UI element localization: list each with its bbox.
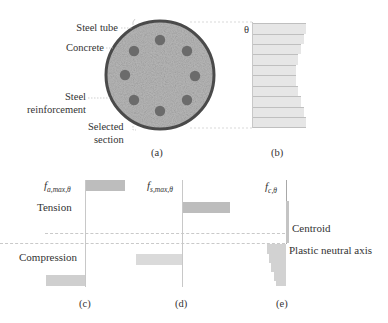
strip	[253, 34, 304, 44]
caption-e: (e)	[276, 298, 288, 309]
tension-bar-reinforcement	[183, 202, 230, 213]
stress-label-steel-tube: fa,max,θ	[44, 179, 71, 196]
plastic-neutral-axis-line	[0, 243, 285, 244]
axis-c	[85, 180, 86, 287]
label-steel-reinforcement-line2: reinforcement	[10, 104, 86, 116]
compression-bar-reinforcement	[136, 254, 182, 265]
strip	[253, 117, 306, 128]
concrete-compression-block	[276, 281, 286, 286]
label-steel-reinforcement-line1: Steel	[20, 91, 86, 103]
strip	[253, 75, 296, 86]
concrete-tension-sliver	[286, 201, 289, 243]
caption-a: (a)	[151, 147, 163, 158]
strip	[253, 96, 301, 107]
concrete-compression-block	[269, 254, 286, 263]
label-steel-tube: Steel tube	[51, 22, 118, 34]
stress-label-concrete: fc,θ	[265, 180, 277, 197]
centroid-line	[45, 233, 285, 234]
caption-b: (b)	[271, 147, 283, 158]
label-concrete: Concrete	[40, 42, 104, 54]
strip	[253, 107, 304, 117]
concrete-compression-block	[274, 272, 286, 281]
label-compression: Compression	[19, 251, 77, 263]
caption-c: (c)	[79, 298, 91, 309]
label-tension: Tension	[37, 201, 72, 213]
compression-bar-steel-tube	[46, 275, 85, 286]
strip	[253, 86, 298, 96]
label-centroid: Centroid	[292, 222, 331, 234]
theta-label: θ	[244, 24, 249, 36]
tension-bar-steel-tube	[86, 180, 125, 191]
stress-label-reinforcement: fs,max,θ	[147, 179, 173, 196]
strip	[253, 65, 296, 75]
strip	[253, 44, 301, 54]
strip	[253, 23, 306, 34]
label-selected-section-line2: section	[94, 134, 124, 146]
axis-d	[182, 180, 183, 287]
label-selected-section-line1: Selected	[88, 121, 124, 133]
concrete-compression-block	[267, 244, 286, 254]
label-plastic-neutral-axis: Plastic neutral axis	[289, 244, 372, 256]
strip	[253, 54, 298, 65]
caption-d: (d)	[175, 298, 187, 309]
concrete-compression-block	[271, 263, 286, 272]
